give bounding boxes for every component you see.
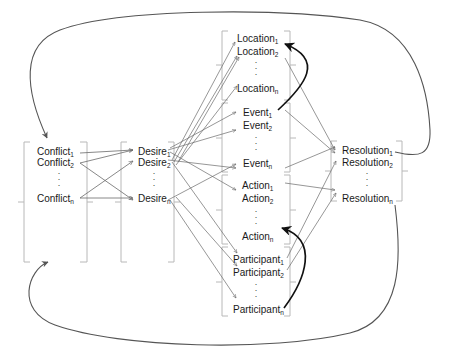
node-action-n: Actionn (242, 231, 273, 245)
node-event-n: Eventn (243, 158, 272, 172)
desire-to-entity-arrows (168, 42, 239, 298)
node-resolution-n: Resolutionn (342, 193, 393, 207)
ellipsis-resolution: ··· (364, 170, 370, 188)
arrow-participant-n-to-action2 (282, 228, 305, 308)
node-action-1: Action1 (242, 180, 273, 194)
node-action-2: Action2 (242, 193, 273, 207)
node-location-n: Locationn (237, 83, 278, 97)
arrow-event1-to-location1 (278, 44, 308, 110)
ellipsis-participant: ··· (253, 281, 259, 299)
node-location-1: Location1 (237, 33, 278, 47)
conflict-to-desire-arrows (80, 150, 133, 200)
node-participant-n: Participantn (233, 304, 284, 318)
node-participant-2: Participant2 (233, 267, 284, 281)
node-conflict-2: Conflict2 (37, 157, 74, 171)
ellipsis-conflict: ··· (56, 170, 62, 188)
group-brackets (18, 31, 408, 316)
ellipsis-action: ··· (253, 208, 259, 226)
ellipsis-event: ··· (253, 134, 259, 152)
node-desire-n: Desiren (138, 193, 171, 207)
node-event-2: Event2 (243, 120, 272, 134)
node-participant-1: Participant1 (233, 254, 284, 268)
bracket-conflict-left (24, 142, 30, 262)
loop-resolution-n-to-conflict-n (29, 205, 398, 345)
node-event-1: Event1 (243, 107, 272, 121)
node-conflict-n: Conflictn (37, 193, 74, 207)
node-location-2: Location2 (237, 46, 278, 60)
diagram-canvas: Conflict1 Conflict2 ··· Conflictn Desire… (0, 0, 451, 349)
entity-to-resolution-arrows (285, 58, 336, 270)
ellipsis-location: ··· (253, 59, 259, 77)
loop-resolution1-to-conflict1 (30, 12, 430, 155)
ellipsis-desire: ··· (151, 170, 157, 188)
connection-lines (0, 0, 451, 349)
